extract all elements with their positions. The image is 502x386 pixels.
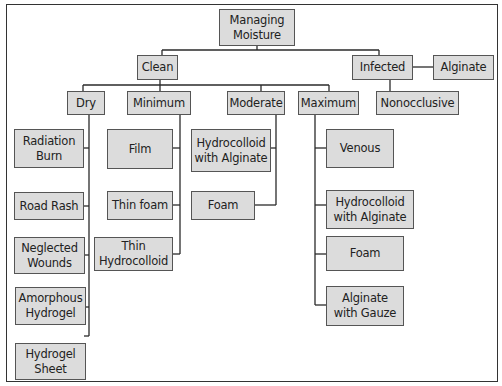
- node-hydrocolloid-with-alginate-moderate: Hydrocolloid with Alginate: [191, 129, 271, 172]
- node-nonocclusive: Nonocclusive: [376, 91, 459, 115]
- node-thin-hydrocolloid: Thin Hydrocolloid: [94, 237, 173, 271]
- node-moderate: Moderate: [227, 91, 285, 115]
- node-managing-moisture: Managing Moisture: [219, 9, 295, 46]
- node-amorphous-hydrogel: Amorphous Hydrogel: [15, 287, 86, 325]
- node-hydrocolloid-with-alginate-maximum: Hydrocolloid with Alginate: [326, 190, 414, 229]
- node-alginate: Alginate: [433, 55, 494, 80]
- node-clean: Clean: [137, 55, 178, 80]
- node-minimum: Minimum: [127, 91, 191, 115]
- node-road-rash: Road Rash: [14, 192, 84, 220]
- node-foam-maximum: Foam: [326, 236, 404, 271]
- node-dry: Dry: [67, 91, 105, 115]
- node-foam-moderate: Foam: [191, 191, 255, 220]
- node-thin-foam: Thin foam: [107, 191, 173, 220]
- node-infected: Infected: [352, 55, 413, 80]
- node-film: Film: [107, 129, 173, 169]
- node-hydrogel-sheet: Hydrogel Sheet: [15, 343, 86, 380]
- node-venous: Venous: [326, 129, 394, 168]
- node-neglected-wounds: Neglected Wounds: [14, 237, 85, 274]
- node-alginate-with-gauze: Alginate with Gauze: [326, 286, 404, 326]
- node-maximum: Maximum: [298, 91, 359, 115]
- node-radiation-burn: Radiation Burn: [14, 129, 84, 168]
